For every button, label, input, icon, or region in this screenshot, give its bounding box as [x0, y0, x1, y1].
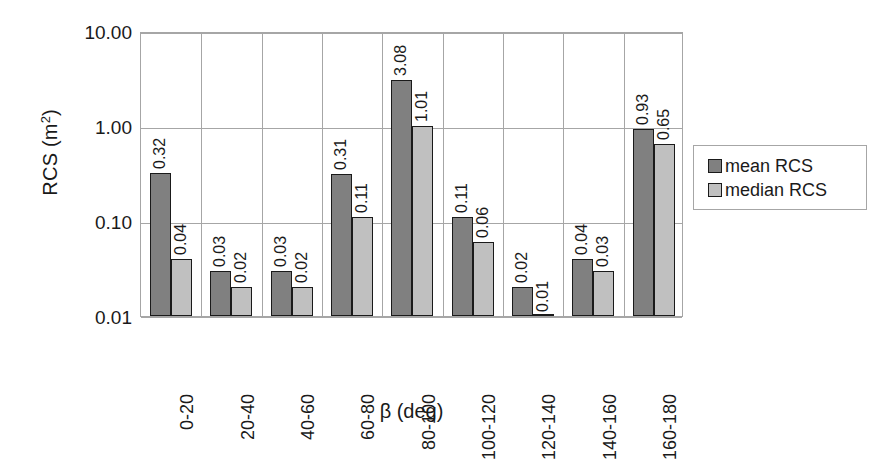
- bar-mean[interactable]: [271, 271, 292, 316]
- bar-mean[interactable]: [331, 174, 352, 316]
- bar-group: 0.310.11: [322, 33, 382, 316]
- y-axis-tick-label: 0.01: [46, 308, 132, 327]
- chart-legend: mean RCS median RCS: [693, 145, 867, 210]
- bar-value-label: 0.01: [535, 281, 551, 312]
- bar-median[interactable]: [654, 144, 675, 316]
- bar-group: 0.110.06: [443, 33, 503, 316]
- bar-mean[interactable]: [452, 217, 473, 316]
- bar-value-label: 0.02: [294, 252, 310, 283]
- y-axis-tick-label: 1.00: [46, 118, 132, 137]
- bar-mean[interactable]: [391, 80, 412, 316]
- bar-value-label: 0.02: [514, 252, 530, 283]
- bar-median[interactable]: [412, 126, 433, 316]
- bar-mean[interactable]: [150, 173, 171, 316]
- bar-median[interactable]: [231, 287, 252, 316]
- bar-group: 0.320.04: [141, 33, 201, 316]
- gridline-horizontal: [141, 317, 682, 318]
- bar-value-label: 0.03: [595, 236, 611, 267]
- bar-value-label: 0.03: [212, 236, 228, 267]
- legend-entry-median[interactable]: median RCS: [708, 178, 866, 202]
- bar-group: 0.030.02: [201, 33, 261, 316]
- plot-area: 0.320.040.030.020.030.020.310.113.081.01…: [140, 32, 683, 317]
- bar-median[interactable]: [292, 287, 313, 316]
- bar-median[interactable]: [593, 271, 614, 316]
- bar-mean[interactable]: [210, 271, 231, 316]
- bar-value-label: 0.03: [273, 236, 289, 267]
- bar-mean[interactable]: [633, 129, 654, 316]
- bar-mean[interactable]: [572, 259, 593, 316]
- bar-value-label: 0.31: [333, 139, 349, 170]
- y-axis-tick-label: 0.10: [46, 213, 132, 232]
- bar-value-label: 0.04: [173, 224, 189, 255]
- bar-median[interactable]: [171, 259, 192, 316]
- bar-group: 3.081.01: [382, 33, 442, 316]
- bar-value-label: 0.11: [354, 183, 370, 213]
- legend-entry-mean[interactable]: mean RCS: [708, 154, 866, 178]
- y-axis-tick-labels: 10.001.000.100.01: [40, 0, 132, 438]
- bar-value-label: 1.01: [414, 90, 430, 121]
- x-axis-tick-labels: 0-2020-4040-6060-8080-100100-120120-1401…: [140, 322, 683, 402]
- bar-median[interactable]: [533, 314, 554, 316]
- legend-label-median: median RCS: [725, 180, 827, 201]
- bar-median[interactable]: [473, 242, 494, 316]
- bar-group: 0.030.02: [262, 33, 322, 316]
- bar-value-label: 0.65: [656, 109, 672, 140]
- legend-swatch-median: [708, 183, 722, 197]
- bar-value-label: 3.08: [393, 44, 409, 75]
- x-axis-title: β (deg): [140, 400, 683, 423]
- bar-group: 0.930.65: [624, 33, 684, 316]
- bar-value-label: 0.02: [233, 252, 249, 283]
- legend-swatch-mean: [708, 159, 722, 173]
- bar-value-label: 0.04: [574, 224, 590, 255]
- legend-label-mean: mean RCS: [725, 156, 813, 177]
- bar-group: 0.020.01: [503, 33, 563, 316]
- bar-group: 0.040.03: [563, 33, 623, 316]
- y-axis-tick-label: 10.00: [46, 23, 132, 42]
- bar-mean[interactable]: [512, 287, 533, 316]
- bar-value-label: 0.93: [635, 94, 651, 125]
- bar-median[interactable]: [352, 217, 373, 316]
- bar-value-label: 0.06: [475, 207, 491, 238]
- bar-value-label: 0.11: [454, 183, 470, 213]
- bar-value-label: 0.32: [152, 138, 168, 169]
